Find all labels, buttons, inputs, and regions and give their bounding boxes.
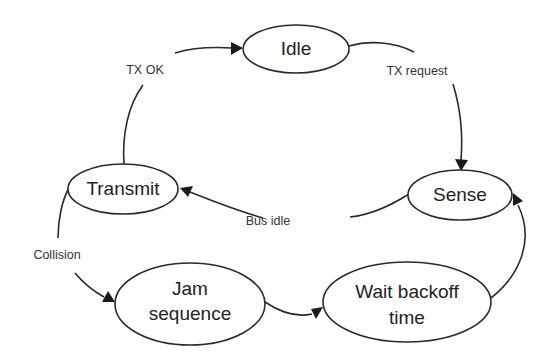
edge-wait-to-sense <box>491 205 525 298</box>
edge-tx-ok <box>124 85 143 164</box>
edge-tx-ok-upper <box>175 48 232 53</box>
edge-collision-upper <box>58 188 69 238</box>
node-jam-label-line1: Jam <box>172 278 208 299</box>
arrowhead-transmit <box>180 186 193 197</box>
state-diagram: TX OK TX request Bus idle Collision Idle… <box>0 0 557 358</box>
node-sense: Sense <box>408 170 512 220</box>
node-idle-label: Idle <box>281 38 312 59</box>
node-wait-label-line2: time <box>389 307 425 328</box>
edge-collision-lower <box>75 273 104 297</box>
node-transmit-label: Transmit <box>86 178 160 199</box>
node-transmit: Transmit <box>68 164 178 214</box>
arrowhead-sense-top <box>455 159 468 171</box>
edge-tx-request-lower <box>453 84 462 160</box>
edge-bus-idle-right <box>350 194 409 217</box>
arrowhead-sense-right <box>513 193 523 206</box>
edge-label-tx-ok: TX OK <box>126 63 164 77</box>
node-wait-backoff: Wait backoff time <box>323 262 491 342</box>
node-idle: Idle <box>243 25 349 73</box>
edge-tx-request-upper <box>349 43 414 52</box>
edge-bus-idle-left <box>190 192 263 218</box>
edge-label-tx-request: TX request <box>386 64 448 78</box>
edge-label-collision: Collision <box>33 248 80 262</box>
node-wait-label-line1: Wait backoff <box>355 281 459 302</box>
node-jam-label-line2: sequence <box>149 303 231 324</box>
arrowhead-idle <box>231 42 243 55</box>
edge-jam-to-wait <box>265 302 312 315</box>
node-jam-sequence: Jam sequence <box>115 263 265 345</box>
arrowhead-wait <box>311 307 323 319</box>
edge-label-bus-idle: Bus idle <box>246 214 291 228</box>
node-sense-label: Sense <box>433 184 487 205</box>
